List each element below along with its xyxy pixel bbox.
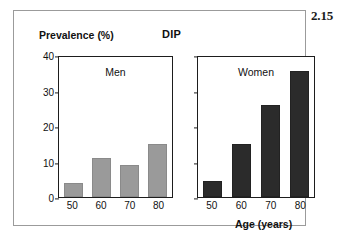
y-tick-label: 0 (48, 193, 54, 204)
figure-number: 2.15 (311, 8, 333, 24)
y-tick-mark (194, 56, 198, 57)
x-tick-labels-women: 50607080 (197, 200, 315, 216)
bar (120, 165, 139, 197)
x-tick-label: 60 (92, 200, 111, 211)
bar (261, 105, 280, 197)
x-tick-labels-men: 50607080 (58, 200, 173, 216)
bar (148, 144, 167, 197)
plot-area-men (59, 57, 172, 197)
figure-frame: Prevalence (%) DIP Age (years) 010203040… (13, 10, 306, 226)
x-tick-label: 50 (202, 200, 221, 211)
x-tick-label: 70 (261, 200, 280, 211)
x-axis-label: Age (years) (235, 218, 292, 230)
y-tick-mark (55, 127, 59, 128)
bar-group-men (59, 57, 172, 197)
y-axis: 010203040 (32, 56, 54, 198)
bar-group-women (198, 57, 314, 197)
x-tick-label: 80 (291, 200, 310, 211)
bar (232, 144, 251, 197)
y-tick-mark (194, 92, 198, 93)
y-tick-mark (55, 56, 59, 57)
bar (203, 181, 222, 197)
plot-area-women (198, 57, 314, 197)
panel-label-men: Men (59, 66, 186, 78)
bar (64, 183, 83, 197)
bar (290, 71, 309, 197)
y-tick-label: 30 (43, 86, 54, 97)
y-tick-label: 20 (43, 122, 54, 133)
x-tick-label: 70 (120, 200, 139, 211)
y-tick-mark (194, 127, 198, 128)
figure-root: 2.15 Prevalence (%) DIP Age (years) 0102… (0, 0, 337, 239)
y-tick-mark (194, 163, 198, 164)
x-tick-label: 50 (63, 200, 82, 211)
y-tick-mark (55, 163, 59, 164)
panel-men: Men (58, 56, 173, 198)
y-tick-mark (55, 92, 59, 93)
x-tick-label: 80 (149, 200, 168, 211)
y-axis-label: Prevalence (%) (39, 29, 114, 41)
x-tick-label: 60 (232, 200, 251, 211)
y-tick-label: 10 (43, 157, 54, 168)
panel-women: Women (197, 56, 315, 198)
chart-title: DIP (162, 28, 181, 40)
panel-label-women: Women (198, 66, 320, 78)
bar (92, 158, 111, 197)
y-tick-label: 40 (43, 51, 54, 62)
